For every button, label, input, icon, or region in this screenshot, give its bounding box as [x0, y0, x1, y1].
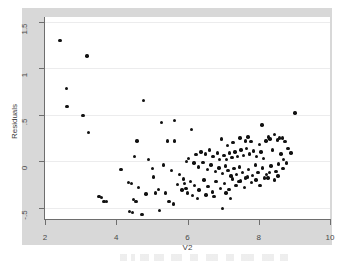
- scatter-point: [164, 191, 167, 194]
- scatter-point: [178, 173, 181, 176]
- scatter-point: [192, 161, 195, 164]
- scatter-point: [226, 144, 229, 147]
- scatter-point: [229, 197, 232, 200]
- scatter-point: [256, 171, 259, 174]
- scatter-point: [162, 163, 165, 166]
- scatter-point: [182, 177, 185, 180]
- scatter-point: [176, 183, 179, 186]
- scatter-point: [289, 151, 292, 154]
- scatter-point: [154, 191, 157, 194]
- scatter-point: [173, 119, 176, 122]
- scatter-point: [204, 152, 207, 155]
- scatter-point: [158, 209, 161, 212]
- scatter-point: [221, 172, 224, 175]
- scatter-point: [238, 165, 241, 168]
- scatter-point: [274, 170, 277, 173]
- scatter-point: [204, 193, 207, 196]
- scatter-point: [170, 169, 173, 172]
- x-tick-mark: [188, 220, 189, 225]
- scatter-point: [160, 121, 163, 124]
- scatter-point: [234, 184, 237, 187]
- scatter-point: [243, 186, 246, 189]
- scatter-point: [137, 186, 140, 189]
- scatter-point: [269, 164, 272, 167]
- scatter-point: [190, 128, 193, 131]
- x-axis-title: V2: [45, 236, 330, 254]
- x-axis-title-label: V2: [183, 243, 193, 252]
- scatter-point: [140, 213, 143, 216]
- scatter-point: [258, 184, 261, 187]
- scatter-point: [223, 182, 226, 185]
- scatter-point: [293, 111, 296, 114]
- scatter-point: [250, 181, 253, 184]
- scatter-point: [252, 149, 255, 152]
- scatter-point: [206, 185, 209, 188]
- scatter-point: [276, 138, 279, 141]
- scatter-point: [221, 207, 224, 210]
- scatter-point: [184, 187, 187, 190]
- scatter-point: [276, 174, 279, 177]
- scatter-point: [197, 165, 200, 168]
- scatter-point: [231, 177, 234, 180]
- scatter-point: [193, 184, 196, 187]
- x-tick-mark: [330, 220, 331, 225]
- scatter-point: [147, 158, 150, 161]
- scatter-point: [264, 139, 267, 142]
- scatter-point: [260, 123, 263, 126]
- scatter-point: [279, 152, 282, 155]
- y-tick-label-text: 0: [20, 166, 30, 170]
- y-tick-mark: [39, 115, 44, 116]
- scatter-point: [194, 153, 197, 156]
- scatter-point: [224, 191, 227, 194]
- scatter-point: [81, 114, 84, 117]
- scatter-point: [197, 188, 200, 191]
- scatter-point: [232, 167, 235, 170]
- scatter-point: [212, 195, 215, 198]
- scatter-point: [202, 178, 205, 181]
- scatter-point: [238, 136, 241, 139]
- scatter-point: [191, 194, 194, 197]
- scatter-point: [151, 167, 154, 170]
- scatter-point: [286, 147, 289, 150]
- scatter-point: [211, 155, 214, 158]
- scatter-point: [236, 155, 239, 158]
- y-tick-label-text: 1: [20, 73, 30, 77]
- scatter-point: [285, 161, 288, 164]
- scatter-point: [119, 168, 122, 171]
- scatter-point: [152, 175, 155, 178]
- scatter-point: [144, 192, 147, 195]
- gridline-y: [45, 22, 330, 23]
- y-tick-mark: [39, 161, 44, 162]
- scatter-point: [131, 211, 134, 214]
- scatter-point: [254, 163, 257, 166]
- scatter-point: [180, 188, 183, 191]
- scatter-point: [241, 171, 244, 174]
- scatter-point: [227, 188, 230, 191]
- scatter-point: [65, 105, 68, 108]
- scatter-point: [251, 174, 254, 177]
- scatter-point: [166, 139, 169, 142]
- scatter-point: [273, 178, 276, 181]
- scatter-point: [199, 150, 202, 153]
- scatter-point: [133, 155, 136, 158]
- scatter-plot-figure: 1.51.50-.5 246810 Residuals V2: [0, 0, 346, 265]
- scatter-point: [245, 147, 248, 150]
- x-tick-mark: [45, 220, 46, 225]
- y-axis-title: Residuals: [9, 88, 21, 154]
- scatter-point: [135, 139, 138, 142]
- y-tick-label-text: -.5: [20, 210, 30, 219]
- scatter-point: [134, 200, 137, 203]
- scatter-point: [206, 168, 209, 171]
- scatter-point: [231, 141, 234, 144]
- y-axis-title-label: Residuals: [11, 103, 20, 138]
- scatter-point: [157, 188, 160, 191]
- scatter-point: [277, 162, 280, 165]
- scatter-point: [258, 143, 261, 146]
- scatter-point: [217, 166, 220, 169]
- scatter-point: [249, 140, 252, 143]
- scatter-point: [228, 151, 231, 154]
- scatter-point: [85, 54, 88, 57]
- scatter-point: [242, 154, 245, 157]
- plot-area: [45, 17, 330, 219]
- scatter-point: [220, 137, 223, 140]
